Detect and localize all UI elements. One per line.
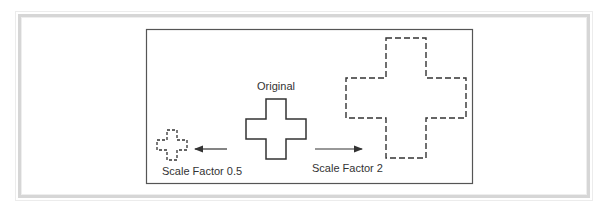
label-scale-double: Scale Factor 2	[312, 162, 383, 174]
label-original: Original	[257, 80, 295, 92]
diagram-canvas: Original Scale Factor 0.5 Scale Factor 2	[0, 0, 610, 206]
label-scale-half: Scale Factor 0.5	[162, 165, 242, 177]
inner-box	[147, 30, 473, 184]
